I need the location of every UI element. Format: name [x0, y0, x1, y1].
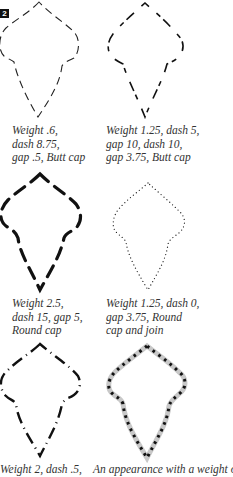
layered-ogee-shape-icon	[105, 342, 190, 462]
dash-dot-ogee-shape-icon	[0, 340, 85, 460]
dashed-ogee-shape-icon	[0, 0, 80, 120]
caption-1: Weight .6, dash 8.75, gap .5, Butt cap	[12, 124, 85, 165]
caption-6: An appearance with a weight of 3,	[93, 463, 233, 477]
caption-5: Weight 2, dash .5,	[0, 463, 82, 477]
caption-2: Weight 1.25, dash 5, gap 10, dash 10, ga…	[106, 124, 200, 165]
dashed-ogee-shape-icon	[0, 172, 90, 292]
caption-4: Weight 1.25, dash 0, gap 3.75, Round cap…	[106, 297, 200, 338]
dotted-ogee-shape-icon	[108, 180, 188, 300]
caption-3: Weight 2.5, dash 15, gap 5, Round cap	[12, 297, 83, 338]
dashed-ogee-shape-icon	[105, 0, 185, 120]
